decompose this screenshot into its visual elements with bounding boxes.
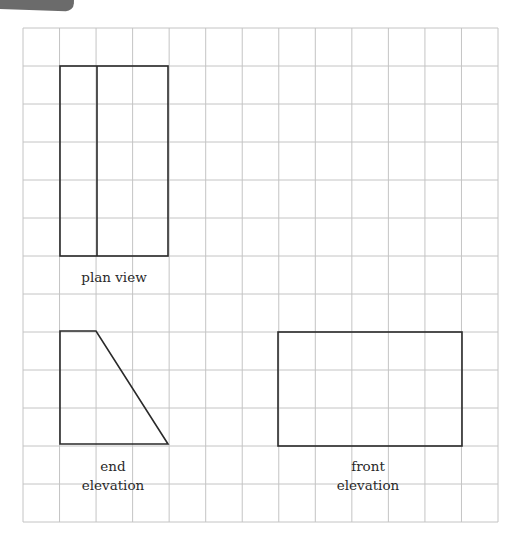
plan-view-outline xyxy=(60,66,168,256)
plan-view: plan view xyxy=(60,66,168,285)
end-elevation-outline xyxy=(60,331,168,444)
front-elevation-label-line1: front xyxy=(351,458,385,474)
end-elevation: end elevation xyxy=(60,331,168,493)
front-elevation: front elevation xyxy=(278,332,462,493)
plan-view-label: plan view xyxy=(81,269,147,285)
front-elevation-outline xyxy=(278,332,462,446)
end-elevation-label-line1: end xyxy=(100,458,126,474)
end-elevation-label-line2: elevation xyxy=(82,477,145,493)
grid-diagram: plan view end elevation front elevation xyxy=(0,0,520,544)
front-elevation-label-line2: elevation xyxy=(337,477,400,493)
